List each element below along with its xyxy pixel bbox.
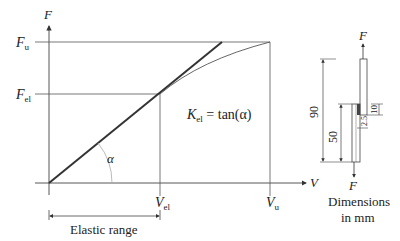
dim-10-label: 10 bbox=[369, 105, 379, 115]
nonlinear-curve bbox=[160, 42, 270, 94]
angle-label: α bbox=[107, 151, 115, 166]
v-axis-label: V bbox=[310, 175, 320, 190]
fu-label: Fu bbox=[15, 35, 30, 52]
f-axis-label: F bbox=[43, 7, 53, 22]
dimensions-caption-line1: Dimensions bbox=[328, 194, 390, 209]
force-displacement-diagram: α F V Fu Fel Vel Vu Kel = tan(α) Elastic… bbox=[0, 0, 400, 241]
fel-label: Fel bbox=[15, 87, 32, 104]
force-bottom-label: F bbox=[348, 178, 358, 193]
dim-small-label: 2.5 bbox=[360, 116, 369, 126]
dimensions-caption-line2: in mm bbox=[341, 210, 375, 225]
dim-50-label: 50 bbox=[326, 131, 340, 143]
stiffness-formula: Kel = tan(α) bbox=[186, 107, 252, 124]
vu-label: Vu bbox=[266, 195, 280, 212]
force-top-label: F bbox=[358, 28, 368, 43]
vel-label: Vel bbox=[155, 195, 171, 212]
axes bbox=[35, 26, 306, 195]
elastic-range-label: Elastic range bbox=[70, 222, 138, 237]
dim-90-label: 90 bbox=[307, 106, 321, 118]
weld-region bbox=[357, 104, 360, 115]
top-plate bbox=[360, 59, 367, 115]
specimen-drawing: F F 90 50 10 2.5 Dimensions in mm bbox=[307, 28, 390, 225]
